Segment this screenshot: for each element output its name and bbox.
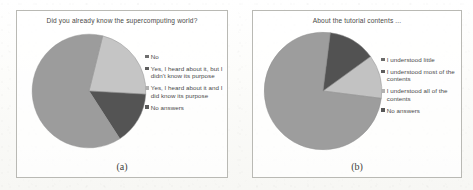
legend-item-label: Yes, I heard about it, but I didn't know…: [151, 65, 225, 80]
legend-item: I understood all of the contents: [381, 87, 461, 102]
legend-item-label: No answers: [387, 107, 420, 114]
legend-swatch-icon: [381, 108, 385, 112]
legend-item-label: I understood little: [387, 56, 435, 63]
pie-chart-a: [31, 33, 147, 149]
figure-panel-a: Did you already know the supercomputing …: [16, 10, 228, 178]
legend-item-label: I understood most of the contents: [387, 68, 461, 83]
legend-item: Yes, I heard about it and I did know its…: [145, 84, 225, 99]
legend-item-label: I understood all of the contents: [387, 87, 461, 102]
legend-item: Yes, I heard about it, but I didn't know…: [145, 65, 225, 80]
legend-swatch-icon: [381, 58, 385, 62]
subfigure-caption-b: (b): [253, 161, 461, 172]
legend-item: No: [145, 53, 225, 60]
legend-a: No Yes, I heard about it, but I didn't k…: [145, 53, 225, 115]
legend-swatch-icon: [145, 55, 149, 59]
legend-item: No answers: [381, 107, 461, 114]
legend-swatch-icon: [381, 89, 385, 93]
legend-swatch-icon: [381, 70, 385, 74]
figure-panel-b: About the tutorial contents ... I unders…: [252, 10, 462, 178]
legend-swatch-icon: [145, 67, 149, 71]
chart-title-b: About the tutorial contents ...: [253, 17, 461, 24]
legend-item: I understood most of the contents: [381, 68, 461, 83]
legend-item-label: No: [151, 53, 159, 60]
legend-item-label: No answers: [151, 104, 184, 111]
legend-item-label: Yes, I heard about it and I did know its…: [151, 84, 225, 99]
legend-b: I understood little I understood most of…: [381, 56, 461, 118]
legend-swatch-icon: [145, 86, 149, 90]
legend-item: I understood little: [381, 56, 461, 63]
subfigure-caption-a: (a): [17, 161, 227, 172]
chart-title-a: Did you already know the supercomputing …: [17, 17, 227, 24]
legend-swatch-icon: [145, 105, 149, 109]
legend-item: No answers: [145, 104, 225, 111]
pie-chart-b: [263, 31, 383, 151]
